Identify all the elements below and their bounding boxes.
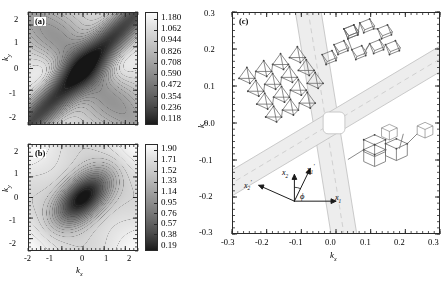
panel-c-ytick-5: -0.2 xyxy=(199,192,212,201)
panel-c: (c) x1 x2 x1' x2' ϕ 0.3 0.2 0.1 0.0 -0.1… xyxy=(196,0,448,282)
colorbar-level-label: 1.062 xyxy=(161,24,181,33)
panel-b-contour-field xyxy=(29,145,137,250)
colorbar-level-label: 1.71 xyxy=(161,155,177,164)
panel-b-ytick-4: -2 xyxy=(9,239,16,248)
panel-b-colorbar xyxy=(145,144,158,251)
panel-b-ylabel-text: k xyxy=(0,188,10,192)
colorbar-level-label: 0.57 xyxy=(161,219,177,228)
panel-c-xtick-6: 0.3 xyxy=(428,238,439,247)
annot-x2p-prime: ' xyxy=(250,178,251,185)
panel-a-ytick-0: 2 xyxy=(14,15,18,24)
panel-c-ylabel-text: k xyxy=(196,124,206,128)
panel-a-plot-area xyxy=(28,12,138,125)
panel-b-tag: (b) xyxy=(34,149,46,158)
colorbar-level-label: 0.472 xyxy=(161,80,181,89)
panel-b-ylabel-sub: y xyxy=(6,185,12,188)
panel-c-ytick-0: 0.3 xyxy=(204,9,215,18)
colorbar-level-label: 1.52 xyxy=(161,166,177,175)
panel-a-ylabel-sub: y xyxy=(6,54,12,57)
panel-b-xtick-0: -2 xyxy=(24,254,31,263)
colorbar-level-label: 0.19 xyxy=(161,241,177,250)
panel-c-ytick-2: 0.1 xyxy=(204,82,215,91)
panel-b-ytick-1: 1 xyxy=(14,169,18,178)
panel-a-ytick-2: 0 xyxy=(14,64,18,73)
colorbar-level-label: 0.944 xyxy=(161,35,181,44)
colorbar-level-label: 0.76 xyxy=(161,209,177,218)
annot-x1p-prime: ' xyxy=(313,162,314,169)
panel-b-xlabel-sub: x xyxy=(80,271,83,277)
panel-c-annot-phi: ϕ xyxy=(300,191,304,201)
panel-c-xtick-2: -0.1 xyxy=(289,238,302,247)
panel-a: (a) 2 1 0 -1 -2 ky 1.1801.0620.9440.8260… xyxy=(0,0,200,140)
panel-b-plot-area xyxy=(28,144,138,251)
colorbar-level-label: 0.236 xyxy=(161,103,181,112)
colorbar-level-label: 0.354 xyxy=(161,92,181,101)
panel-c-ytick-4: -0.1 xyxy=(199,156,212,165)
colorbar-level-label: 1.14 xyxy=(161,187,177,196)
annot-x2-sub: 2 xyxy=(286,173,289,179)
panel-c-xtick-5: 0.2 xyxy=(394,238,405,247)
panel-c-ylabel: ky xyxy=(196,121,208,128)
colorbar-level-label: 1.33 xyxy=(161,176,177,185)
colorbar-level-label: 0.38 xyxy=(161,230,177,239)
annot-x1p-sub: 1 xyxy=(311,169,314,175)
panel-a-ylabel-text: k xyxy=(0,57,10,61)
panel-a-ylabel: ky xyxy=(0,54,12,61)
panel-a-contour-field xyxy=(29,13,137,124)
panel-c-xtick-3: 0.0 xyxy=(325,238,336,247)
panel-c-annot-x2: x2 xyxy=(282,168,288,179)
panel-b-xtick-2: 0 xyxy=(80,254,84,263)
annot-x1-sub: 1 xyxy=(339,198,342,204)
colorbar-level-label: 0.590 xyxy=(161,69,181,78)
panel-b-xlabel: kx xyxy=(76,265,83,277)
panel-a-ytick-1: 1 xyxy=(14,38,18,47)
colorbar-level-label: 0.118 xyxy=(161,114,181,123)
panel-c-annot-x1-prime: x1' xyxy=(307,162,315,175)
annot-x2p-sub: 2 xyxy=(248,185,251,191)
panel-a-colorbar xyxy=(145,12,158,125)
panel-c-annot-x2-prime: x2' xyxy=(244,178,252,191)
panel-c-ytick-6: -0.3 xyxy=(199,228,212,237)
panel-b-xtick-4: 2 xyxy=(127,254,131,263)
panel-a-tag: (a) xyxy=(34,17,46,26)
panel-b-ytick-2: 0 xyxy=(14,193,18,202)
panel-c-xtick-4: 0.1 xyxy=(360,238,371,247)
panel-b-ytick-3: -1 xyxy=(9,216,16,225)
panel-b: (b) 2 1 0 -1 -2 ky -2 -1 0 1 2 kx 1.901.… xyxy=(0,138,200,282)
panel-c-xtick-1: -0.2 xyxy=(255,238,268,247)
panel-b-xtick-3: 1 xyxy=(104,254,108,263)
colorbar-level-label: 0.708 xyxy=(161,58,181,67)
panel-b-colorbar-ticks xyxy=(146,145,157,250)
colorbar-level-label: 1.180 xyxy=(161,13,181,22)
panel-c-ytick-1: 0.2 xyxy=(204,45,215,54)
panel-c-tag: (c) xyxy=(238,17,249,26)
panel-a-ytick-3: -1 xyxy=(9,89,16,98)
panel-c-annot-x1: x1 xyxy=(335,193,341,204)
panel-c-xtick-0: -0.3 xyxy=(221,238,234,247)
figure-root: (a) 2 1 0 -1 -2 ky 1.1801.0620.9440.8260… xyxy=(0,0,448,282)
panel-b-ylabel: ky xyxy=(0,185,12,192)
panel-b-xtick-1: -1 xyxy=(46,254,53,263)
panel-a-colorbar-ticks xyxy=(146,13,157,124)
panel-c-xlabel-sub: x xyxy=(334,256,337,262)
panel-b-ytick-0: 2 xyxy=(14,147,18,156)
colorbar-level-label: 1.90 xyxy=(161,144,177,153)
panel-c-xlabel: kx xyxy=(330,250,337,262)
panel-c-ylabel-sub: y xyxy=(202,121,208,124)
colorbar-level-label: 0.95 xyxy=(161,198,177,207)
colorbar-level-label: 0.826 xyxy=(161,47,181,56)
panel-a-ytick-4: -2 xyxy=(9,113,16,122)
